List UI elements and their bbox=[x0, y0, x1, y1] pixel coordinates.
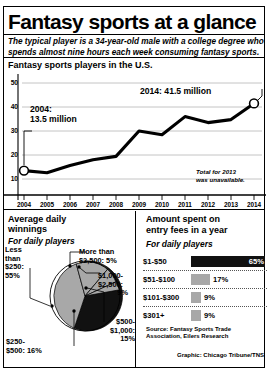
source-credit: Source: Fantasy Sports Trade Association… bbox=[146, 326, 264, 341]
bar-category-label: $1-$50 bbox=[143, 257, 191, 266]
pie-label-1000-pct: 9% bbox=[98, 289, 128, 298]
x-tick-2013: 2013 bbox=[220, 201, 242, 208]
data-marker-2004 bbox=[20, 166, 29, 175]
callout-2004: 2004: 13.5 million bbox=[30, 104, 77, 124]
y-tick-30: 30 bbox=[4, 127, 18, 134]
divider-under-deck bbox=[4, 57, 264, 58]
chart-note: Total for 2013 was unavailable. bbox=[196, 168, 245, 183]
deck-text: The typical player is a 34-year-old male… bbox=[8, 37, 264, 58]
x-tick-2014: 2014 bbox=[243, 201, 265, 208]
chart-note-line2: was unavailable. bbox=[196, 176, 245, 183]
x-axis-ticks bbox=[24, 195, 254, 200]
callout-2014: 2014: 41.5 million bbox=[140, 86, 211, 96]
bar-value-label: 17% bbox=[213, 275, 228, 284]
pie-label-less-pct: 55% bbox=[5, 271, 20, 280]
pie-label-500-pct: 15% bbox=[120, 334, 135, 343]
bar-fill bbox=[191, 274, 210, 285]
bar-track: 9% bbox=[191, 310, 267, 321]
x-tick-2004: 2004 bbox=[13, 201, 35, 208]
graphic-credit: Graphic: Chicago Tribune/TNS bbox=[146, 352, 264, 358]
page-title: Fantasy sports at a glance bbox=[8, 11, 256, 32]
pie-label-250-l2: $500: 16% bbox=[6, 346, 42, 355]
x-tick-2009: 2009 bbox=[128, 201, 150, 208]
pie-label-more-l2: $2,500: 5% bbox=[79, 256, 117, 265]
pie-title-line2: winnings bbox=[8, 224, 47, 234]
pie-label-250-500: $250- $500: 16% bbox=[6, 338, 72, 355]
y-tick-10: 10 bbox=[4, 175, 18, 182]
bar-category-label: $51-$100 bbox=[143, 275, 191, 284]
pie-title-line1: Average daily bbox=[8, 214, 66, 224]
y-tick-40: 40 bbox=[4, 103, 18, 110]
bar-track: 65% bbox=[191, 256, 267, 267]
bar-row-101-300: $101-$300 9% bbox=[143, 289, 267, 307]
x-tick-2007: 2007 bbox=[82, 201, 104, 208]
bar-value-label: 9% bbox=[204, 293, 215, 302]
bar-title-line2: entry fees in a year bbox=[146, 225, 228, 235]
x-tick-2008: 2008 bbox=[105, 201, 127, 208]
leader-line-2014 bbox=[258, 89, 262, 100]
callout-2004-value: 13.5 million bbox=[30, 114, 77, 124]
bar-category-label: $101-$300 bbox=[143, 293, 191, 302]
x-tick-2006: 2006 bbox=[59, 201, 81, 208]
bar-chart-title: Amount spent on entry fees in a year bbox=[146, 214, 264, 236]
bar-row-1-50: $1-$50 65% bbox=[143, 253, 267, 271]
x-tick-2011: 2011 bbox=[174, 201, 196, 208]
bar-track: 17% bbox=[191, 274, 267, 285]
bar-value-label: 9% bbox=[204, 311, 215, 320]
chart-note-line1: Total for 2013 bbox=[196, 168, 236, 175]
x-tick-2005: 2005 bbox=[36, 201, 58, 208]
bar-chart-subtitle: For daily players bbox=[146, 239, 213, 249]
y-tick-20: 20 bbox=[4, 151, 18, 158]
bar-title-line1: Amount spent on bbox=[146, 214, 220, 224]
pie-label-500-1000: $500- $1,000: 15% bbox=[99, 318, 135, 344]
y-tick-50: 50 bbox=[4, 79, 18, 86]
bar-value-label: 65% bbox=[249, 257, 264, 266]
line-chart-title: Fantasy sports players in the U.S. bbox=[8, 60, 153, 70]
callout-2004-year: 2004: bbox=[30, 104, 52, 114]
bar-category-label: $301+ bbox=[143, 311, 191, 320]
pie-label-more-than-2500: More than $2,500: 5% bbox=[79, 248, 135, 265]
data-marker-2014 bbox=[250, 99, 259, 108]
pie-label-less-than-250: Less than $250: 55% bbox=[5, 246, 39, 280]
leader-line-2004 bbox=[24, 131, 32, 165]
bar-row-51-100: $51-$100 17% bbox=[143, 271, 267, 289]
divider-under-headline bbox=[4, 34, 264, 35]
pie-label-1000-2500: $1,000- $2,500: 9% bbox=[98, 272, 138, 298]
source-line2: Association, Eilers Research bbox=[146, 333, 228, 339]
bar-chart-rows: $1-$50 65% $51-$100 17% $101-$300 9% $30… bbox=[143, 253, 267, 324]
infographic-root: Fantasy sports at a glance The typical p… bbox=[0, 0, 272, 374]
bar-track: 9% bbox=[191, 292, 267, 303]
bar-fill bbox=[191, 292, 201, 303]
bar-row-301-plus: $301+ 9% bbox=[143, 307, 267, 324]
source-line1: Source: Fantasy Sports Trade bbox=[146, 326, 231, 332]
x-tick-2010: 2010 bbox=[151, 201, 173, 208]
x-tick-2012: 2012 bbox=[197, 201, 219, 208]
bar-fill bbox=[191, 310, 201, 321]
pie-chart-title: Average daily winnings bbox=[8, 214, 128, 234]
